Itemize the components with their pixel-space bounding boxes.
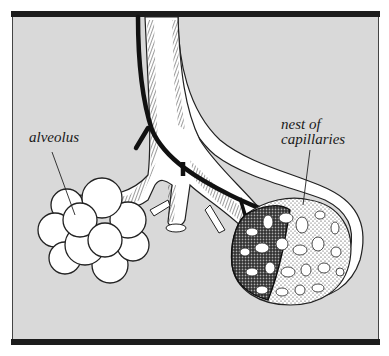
frame-bottom-bar bbox=[11, 339, 380, 345]
alveolus-label: alveolus bbox=[29, 130, 79, 145]
capillaries-label: nest of capillaries bbox=[281, 117, 345, 147]
capillary-nest bbox=[232, 198, 351, 305]
diagram-canvas bbox=[0, 0, 389, 356]
frame-top-bar bbox=[11, 11, 380, 17]
lung-alveolus-diagram: alveolus nest of capillaries bbox=[0, 0, 389, 356]
capillaries-label-line1: nest of bbox=[281, 117, 345, 132]
capillaries-label-line2: capillaries bbox=[281, 132, 345, 147]
